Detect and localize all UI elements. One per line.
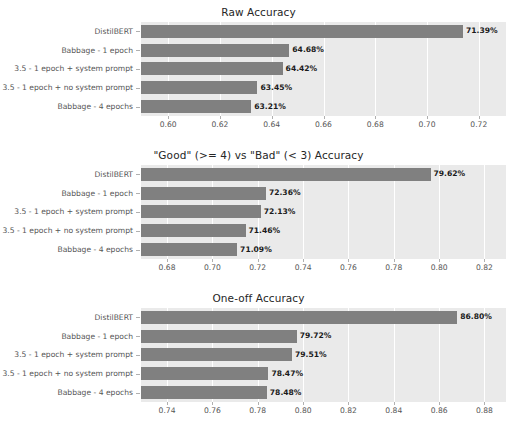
- x-tick-label: 0.70: [204, 263, 221, 272]
- y-axis-label: Babbage - 4 epochs: [0, 243, 135, 256]
- y-axis-labels: DistilBERTBabbage - 1 epoch3.5 - 1 epoch…: [0, 165, 135, 259]
- bar: [141, 44, 289, 57]
- bar-value-label: 64.68%: [292, 46, 324, 54]
- bar-value-label: 72.13%: [264, 208, 296, 216]
- bar-value-label: 79.72%: [300, 332, 332, 340]
- bar-row: 78.48%: [141, 386, 506, 399]
- bar: [141, 311, 457, 324]
- chart-panel-good-vs-bad-accuracy: "Good" (>= 4) vs "Bad" (< 3) Accuracy Di…: [0, 143, 517, 286]
- bar-row: 63.45%: [141, 81, 506, 94]
- chart-title: One-off Accuracy: [0, 292, 517, 304]
- y-tick-mark: [136, 174, 140, 175]
- y-axis-labels: DistilBERTBabbage - 1 epoch3.5 - 1 epoch…: [0, 22, 135, 116]
- bar-value-label: 79.51%: [295, 351, 327, 359]
- y-tick-mark: [136, 231, 140, 232]
- bar: [141, 330, 297, 343]
- y-tick-mark: [136, 355, 140, 356]
- y-axis-label: 3.5 - 1 epoch + system prompt: [0, 348, 135, 361]
- x-tick-label: 0.64: [263, 120, 280, 129]
- x-tick-mark: [303, 402, 304, 405]
- chart-title: Raw Accuracy: [0, 6, 517, 18]
- y-tick-mark: [136, 193, 140, 194]
- y-axis-label: 3.5 - 1 epoch + system prompt: [0, 62, 135, 75]
- x-axis-ticks: 0.740.760.780.800.820.840.860.88: [141, 402, 506, 422]
- bar: [141, 100, 251, 113]
- x-tick-mark: [439, 259, 440, 262]
- x-tick-label: 0.80: [295, 406, 312, 415]
- x-tick-label: 0.66: [315, 120, 332, 129]
- y-axis-label: Babbage - 1 epoch: [0, 187, 135, 200]
- bar-row: 79.62%: [141, 168, 506, 181]
- bar: [141, 224, 246, 237]
- y-tick-mark: [136, 88, 140, 89]
- x-tick-label: 0.88: [476, 406, 493, 415]
- y-axis-label: DistilBERT: [0, 25, 135, 38]
- y-axis-label: DistilBERT: [0, 168, 135, 181]
- x-tick-label: 0.62: [211, 120, 228, 129]
- x-tick-label: 0.82: [340, 406, 357, 415]
- x-tick-mark: [348, 402, 349, 405]
- x-tick-label: 0.76: [340, 263, 357, 272]
- x-tick-label: 0.76: [204, 406, 221, 415]
- bar-value-label: 71.46%: [249, 227, 281, 235]
- y-axis-label: 3.5 - 1 epoch + no system prompt: [0, 81, 135, 94]
- x-tick-mark: [272, 116, 273, 119]
- bar-series: 71.39%64.68%64.42%63.45%63.21%: [141, 22, 506, 116]
- chart-title: "Good" (>= 4) vs "Bad" (< 3) Accuracy: [0, 149, 517, 161]
- x-tick-label: 0.74: [159, 406, 176, 415]
- x-tick-label: 0.84: [385, 406, 402, 415]
- bar: [141, 386, 267, 399]
- y-tick-mark: [136, 212, 140, 213]
- y-axis-label: Babbage - 1 epoch: [0, 330, 135, 343]
- x-tick-label: 0.72: [249, 263, 266, 272]
- x-tick-mark: [479, 116, 480, 119]
- bar-row: 72.13%: [141, 205, 506, 218]
- x-tick-mark: [167, 402, 168, 405]
- bar: [141, 187, 266, 200]
- bar: [141, 81, 257, 94]
- y-axis-label: Babbage - 4 epochs: [0, 100, 135, 113]
- bar-value-label: 86.80%: [460, 314, 492, 322]
- x-axis-ticks: 0.680.700.720.740.760.780.800.82: [141, 259, 506, 279]
- bar-value-label: 78.48%: [270, 389, 302, 397]
- x-tick-mark: [303, 259, 304, 262]
- bar: [141, 367, 268, 380]
- x-tick-mark: [212, 402, 213, 405]
- x-tick-label: 0.78: [385, 263, 402, 272]
- bar-value-label: 71.39%: [466, 28, 498, 36]
- bar-value-label: 71.09%: [240, 246, 272, 254]
- bar-value-label: 78.47%: [271, 370, 303, 378]
- bar-row: 79.72%: [141, 330, 506, 343]
- bar-row: 63.21%: [141, 100, 506, 113]
- x-tick-label: 0.78: [249, 406, 266, 415]
- x-tick-mark: [348, 259, 349, 262]
- x-tick-mark: [394, 259, 395, 262]
- bar-row: 71.39%: [141, 25, 506, 38]
- x-tick-mark: [394, 402, 395, 405]
- y-tick-mark: [136, 250, 140, 251]
- x-tick-label: 0.74: [295, 263, 312, 272]
- x-tick-label: 0.68: [367, 120, 384, 129]
- plot-area: 71.39%64.68%64.42%63.45%63.21%: [141, 22, 506, 116]
- x-tick-mark: [258, 259, 259, 262]
- x-tick-mark: [168, 116, 169, 119]
- y-axis-label: Babbage - 1 epoch: [0, 44, 135, 57]
- y-tick-mark: [136, 336, 140, 337]
- accuracy-comparison-figure: Raw Accuracy DistilBERTBabbage - 1 epoch…: [0, 0, 517, 429]
- y-axis-label: 3.5 - 1 epoch + no system prompt: [0, 367, 135, 380]
- x-tick-mark: [167, 259, 168, 262]
- x-tick-mark: [484, 402, 485, 405]
- bar-row: 64.68%: [141, 44, 506, 57]
- x-tick-mark: [375, 116, 376, 119]
- bar-value-label: 63.21%: [254, 103, 286, 111]
- y-axis-label: Babbage - 4 epochs: [0, 386, 135, 399]
- x-tick-label: 0.86: [431, 406, 448, 415]
- x-tick-mark: [220, 116, 221, 119]
- plot-area: 79.62%72.36%72.13%71.46%71.09%: [141, 165, 506, 259]
- y-axis-label: DistilBERT: [0, 311, 135, 324]
- x-tick-mark: [258, 402, 259, 405]
- chart-panel-one-off-accuracy: One-off Accuracy DistilBERTBabbage - 1 e…: [0, 286, 517, 429]
- y-tick-mark: [136, 317, 140, 318]
- bar: [141, 205, 261, 218]
- bar-row: 71.09%: [141, 243, 506, 256]
